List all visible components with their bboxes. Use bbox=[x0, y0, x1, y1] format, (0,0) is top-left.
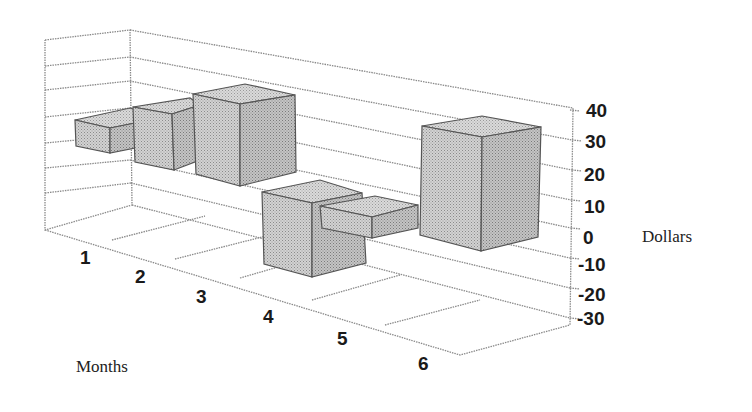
x-category: 1 bbox=[80, 247, 91, 269]
y-tick: 20 bbox=[584, 164, 605, 186]
y-tick: -30 bbox=[577, 308, 604, 330]
x-category: 4 bbox=[263, 306, 274, 328]
bars bbox=[75, 84, 541, 277]
x-category: 2 bbox=[135, 266, 146, 288]
3d-bar-chart: 40 30 20 10 0 -10 -20 -30 1 2 3 4 5 6 Mo… bbox=[0, 0, 752, 412]
y-tick: 30 bbox=[585, 131, 606, 153]
y-tick: 0 bbox=[583, 227, 594, 249]
y-axis-title: Dollars bbox=[642, 227, 692, 247]
y-tick: 10 bbox=[584, 196, 605, 218]
y-tick: -10 bbox=[578, 254, 605, 276]
bar-month-3 bbox=[193, 84, 296, 186]
chart-plot-area bbox=[0, 0, 752, 412]
bar-month-2 bbox=[133, 98, 200, 170]
x-category: 3 bbox=[196, 286, 207, 308]
bar-month-6 bbox=[420, 116, 541, 251]
y-tick: -20 bbox=[578, 284, 605, 306]
x-category: 5 bbox=[337, 328, 348, 350]
y-tick: 40 bbox=[586, 100, 607, 122]
x-axis-title: Months bbox=[76, 357, 128, 377]
x-category: 6 bbox=[418, 353, 429, 375]
